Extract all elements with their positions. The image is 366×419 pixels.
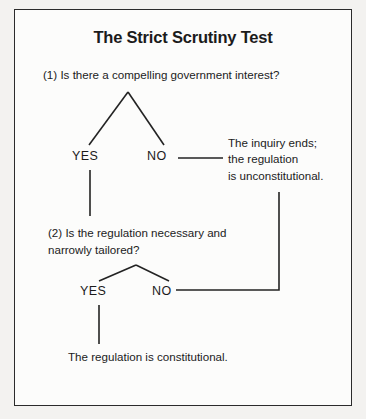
figure-root: The Strict Scrutiny Test (1) Is there a … — [0, 0, 366, 419]
branch-label-q1-yes: YES — [72, 148, 98, 165]
q2-yes-diagonal-line — [99, 265, 136, 281]
branch-label-q1-no: NO — [147, 148, 167, 165]
branch-label-q2-no: NO — [152, 283, 172, 300]
question-one-text: (1) Is there a compelling government int… — [43, 67, 280, 83]
page-title: The Strict Scrutiny Test — [0, 26, 366, 48]
outcome-unconstitutional-line-2: the regulation — [228, 152, 298, 165]
q2-no-diagonal-line — [136, 265, 169, 281]
q1-no-diagonal-line — [128, 92, 164, 145]
question-two-text: (2) Is the regulation necessary andnarro… — [48, 225, 227, 259]
outcome-unconstitutional-line-1: The inquiry ends; — [228, 136, 317, 149]
branch-label-q2-yes: YES — [80, 283, 106, 300]
outcome-unconstitutional-text: The inquiry ends;the regulationis uncons… — [228, 135, 323, 184]
outcome-constitutional-text: The regulation is constitutional. — [68, 349, 228, 365]
question-two-line-1: (2) Is the regulation necessary and — [48, 226, 227, 239]
q1-yes-diagonal-line — [89, 92, 128, 145]
question-two-line-2: narrowly tailored? — [48, 243, 140, 256]
outcome-unconstitutional-line-3: is unconstitutional. — [228, 169, 323, 182]
